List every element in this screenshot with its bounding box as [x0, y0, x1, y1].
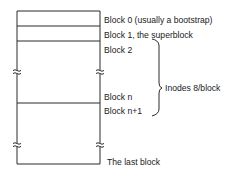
block-2-label: Block 2 [104, 45, 132, 55]
inodes-label: Inodes 8/block [165, 83, 220, 93]
block-n-label: Block n [104, 92, 132, 102]
break-mark-icon [96, 143, 104, 148]
break-mark-icon [13, 70, 21, 75]
disk-layout-diagram: Block 0 (usually a bootstrap) Block 1, t… [0, 0, 235, 175]
block-1-label: Block 1, the superblock [104, 30, 193, 40]
last-block-label: The last block [107, 157, 160, 167]
block-n-plus-1-label: Block n+1 [104, 106, 142, 116]
break-mark-icon [13, 143, 21, 148]
break-mark-icon [96, 70, 104, 75]
block-0-label: Block 0 (usually a bootstrap) [104, 15, 212, 25]
inode-region-brace-icon [152, 39, 162, 116]
